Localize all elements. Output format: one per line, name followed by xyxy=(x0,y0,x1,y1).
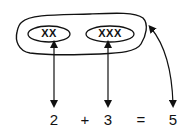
equation-equals: = xyxy=(137,111,146,128)
equation-term-a: 2 xyxy=(50,111,58,128)
equation-term-b: 3 xyxy=(104,111,112,128)
equation-plus: + xyxy=(81,111,90,128)
addition-sets-diagram: XX XXX 2 + 3 = 5 xyxy=(0,0,189,139)
outer-group-outline xyxy=(16,13,146,54)
right-set-label: XXX xyxy=(98,27,122,39)
curved-double-arrow xyxy=(151,28,173,104)
equation-result: 5 xyxy=(169,111,177,128)
diagram-lines xyxy=(0,0,189,139)
left-set-label: XX xyxy=(41,27,57,39)
